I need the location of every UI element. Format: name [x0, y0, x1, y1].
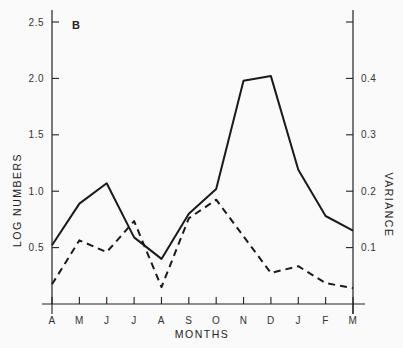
- x-tick-label: O: [212, 315, 220, 326]
- x-tick-label: J: [131, 315, 137, 326]
- y-tick-label: 2.0: [29, 73, 44, 84]
- y-tick-label: 2.5: [29, 17, 44, 28]
- y2-tick-label: 0.2: [361, 186, 376, 197]
- y2-tick-label: 0.4: [361, 73, 376, 84]
- variance-line: [52, 200, 353, 289]
- y-axis-title: LOG NUMBERS: [11, 153, 23, 247]
- x-tick-label: N: [240, 315, 248, 326]
- x-tick-label: A: [48, 315, 55, 326]
- x-tick-label: M: [349, 315, 358, 326]
- log-numbers-line: [52, 76, 353, 259]
- x-tick-label: J: [104, 315, 110, 326]
- panel-label: B: [72, 19, 80, 31]
- x-tick-label: D: [267, 315, 275, 326]
- y-tick-label: 1.5: [29, 129, 44, 140]
- x-tick-label: M: [75, 315, 84, 326]
- axes: 0.51.01.52.02.50.10.20.30.4AMJJASONDJFM: [29, 10, 377, 326]
- y2-tick-label: 0.1: [361, 242, 376, 253]
- y2-axis-title: VARIANCE: [383, 173, 395, 238]
- x-tick-label: F: [322, 315, 329, 326]
- x-tick-label: A: [158, 315, 165, 326]
- y-tick-label: 0.5: [29, 242, 44, 253]
- series-group: [52, 76, 353, 288]
- y2-tick-label: 0.3: [361, 129, 376, 140]
- x-axis-title: MONTHS: [175, 328, 230, 340]
- x-tick-label: J: [296, 315, 302, 326]
- x-tick-label: S: [185, 315, 192, 326]
- y-tick-label: 1.0: [29, 186, 44, 197]
- chart: 0.51.01.52.02.50.10.20.30.4AMJJASONDJFM …: [0, 0, 403, 348]
